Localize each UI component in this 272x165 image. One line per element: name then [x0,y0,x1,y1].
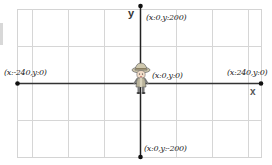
point-label-center: (x:0,y:0) [152,71,183,80]
dot-left [15,81,20,86]
dot-right [259,81,264,86]
grid-svg [0,0,272,165]
y-axis-label: y [128,7,134,19]
point-label-left: (x:-240,y:0) [4,68,47,77]
point-label-right: (x:240,y:0) [227,68,267,77]
x-axis-label: x [250,86,256,97]
dot-top [138,4,143,9]
point-label-top: (x:0,y:200) [146,13,186,22]
dot-bottom [138,155,143,160]
point-label-bottom: (x:0,y:-200) [144,144,187,153]
coordinate-stage: y x (x:0,y:200) (x:-240,y:0) (x:0,y:0) (… [0,0,272,165]
